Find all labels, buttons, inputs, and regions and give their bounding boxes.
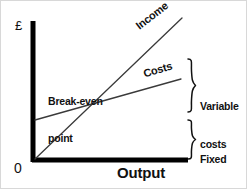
variable-costs-brace	[188, 59, 196, 112]
fixed-costs-label: Fixed costs	[200, 127, 226, 189]
x-axis-label: Output	[117, 165, 165, 181]
break-even-chart: £ 0 Output Break-even point Income Costs…	[0, 0, 247, 189]
fixed-costs-line-1: Fixed	[200, 153, 226, 166]
origin-label: 0	[14, 161, 22, 176]
y-axis-label: £	[15, 19, 22, 33]
break-even-point-annotation: Break-even point	[48, 70, 103, 169]
break-even-line-2: point	[48, 132, 103, 144]
variable-costs-line-1: Variable	[200, 100, 239, 113]
fixed-costs-brace	[188, 120, 196, 159]
break-even-line-1: Break-even	[48, 95, 103, 107]
